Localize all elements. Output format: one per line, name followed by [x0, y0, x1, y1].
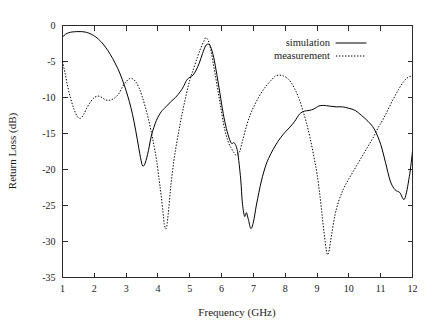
y-axis-title: Return Loss (dB) [6, 112, 19, 189]
y-tick-label: -35 [42, 272, 55, 283]
series-simulation [63, 32, 413, 229]
y-tick-label: -25 [42, 200, 55, 211]
y-tick-label: -15 [42, 128, 55, 139]
x-tick-label: 11 [376, 283, 386, 294]
x-tick-label: 2 [92, 283, 97, 294]
y-tick-label: -5 [47, 56, 55, 67]
legend-label-simulation: simulation [286, 37, 331, 48]
y-tick-label: -10 [42, 92, 55, 103]
x-tick-label: 6 [219, 283, 224, 294]
y-tick-label: -30 [42, 236, 55, 247]
x-tick-label: 7 [251, 283, 256, 294]
x-tick-label: 12 [408, 283, 418, 294]
y-tick-label: 0 [51, 20, 56, 31]
return-loss-chart: 0-5-10-15-20-25-30-35 123456789101112 si… [0, 0, 432, 326]
x-tick-label: 3 [124, 283, 129, 294]
chart-figure: 0-5-10-15-20-25-30-35 123456789101112 si… [0, 0, 432, 326]
chart-legend: simulationmeasurement [274, 37, 366, 61]
series-measurement [63, 38, 413, 255]
x-axis-title: Frequency (GHz) [198, 306, 276, 319]
x-tick-label: 1 [60, 283, 65, 294]
x-tick-label: 4 [155, 283, 160, 294]
x-tick-label: 10 [344, 283, 354, 294]
y-axis-ticks: 0-5-10-15-20-25-30-35 [42, 20, 412, 283]
x-tick-label: 9 [315, 283, 320, 294]
data-series-layer [63, 32, 413, 255]
x-tick-label: 5 [187, 283, 192, 294]
x-tick-label: 8 [283, 283, 288, 294]
legend-label-measurement: measurement [274, 50, 330, 61]
y-tick-label: -20 [42, 164, 55, 175]
